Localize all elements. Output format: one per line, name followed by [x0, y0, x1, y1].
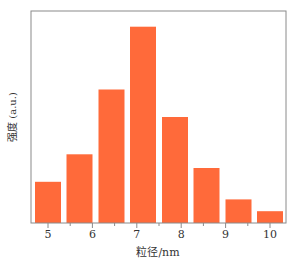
x-axis-label: 粒径/nm: [136, 245, 180, 259]
x-tick-label: 9: [222, 228, 229, 241]
x-tick-label: 8: [178, 228, 185, 241]
x-tick-label: 6: [89, 228, 96, 241]
x-tick-label: 5: [45, 228, 52, 241]
y-axis-label: 强度 (a.u.): [6, 92, 18, 142]
x-axis-ticks: [48, 223, 270, 228]
bar: [67, 154, 93, 223]
x-tick-label: 10: [263, 228, 277, 241]
bar: [257, 211, 283, 223]
x-tick-label: 7: [133, 228, 140, 241]
bar: [162, 117, 188, 223]
bar: [194, 168, 220, 223]
x-axis-tick-labels: 5678910: [45, 228, 278, 241]
bars: [35, 27, 283, 223]
particle-size-histogram: 5678910 粒径/nm 强度 (a.u.): [0, 0, 294, 264]
bar: [35, 182, 61, 223]
bar: [226, 199, 252, 223]
bar: [130, 27, 156, 223]
bar: [99, 90, 125, 224]
